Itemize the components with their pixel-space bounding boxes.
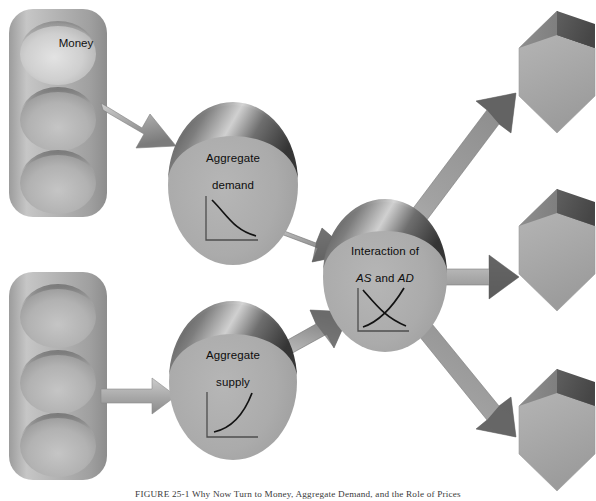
node-aggregate-demand[interactable] (168, 102, 298, 265)
money-stack-slot-1[interactable] (20, 21, 96, 85)
outcome-bottom[interactable] (519, 369, 595, 491)
node-aggregate-supply[interactable] (169, 301, 297, 460)
supply-stack-slot-2[interactable] (20, 350, 96, 414)
supply-stack-slot-1[interactable] (20, 284, 96, 348)
arrow-money-to-demand (101, 103, 176, 148)
node-as-ad-interaction[interactable] (323, 199, 447, 352)
supply-stack[interactable] (9, 272, 107, 480)
outcome-middle[interactable] (519, 189, 595, 311)
diagram-graphics (0, 0, 596, 501)
outcome-top[interactable] (519, 11, 595, 133)
arrow-supply-stack-to-supply (101, 378, 176, 414)
figure-caption: FIGURE 25-1 Why Now Turn to Money, Aggre… (0, 489, 596, 499)
money-stack-slot-1-label: Money (26, 37, 126, 49)
money-stack-slot-2[interactable] (20, 87, 96, 151)
money-stack-slot-3[interactable] (20, 150, 96, 214)
supply-stack-slot-3[interactable] (20, 413, 96, 477)
figure-canvas: Money Aggregate demand Aggregate supply … (0, 0, 596, 501)
